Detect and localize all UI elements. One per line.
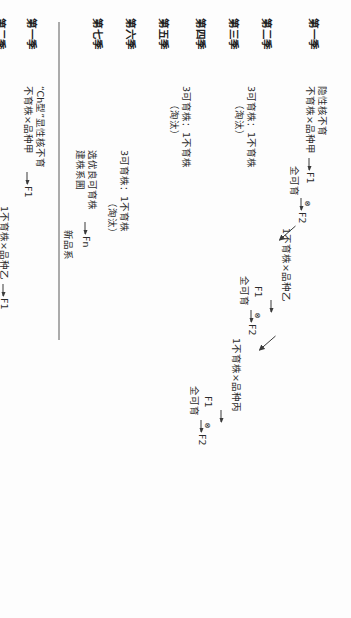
scanned-page-stage: 第一季 第二季 第三季 第四季 第五季 第六季 第七季 隐性核不育 不育株×品种…	[0, 0, 351, 618]
figure-b-arrow-start-to-f1	[26, 172, 27, 184]
figure-b-season-1: 第一季	[24, 18, 39, 50]
figure-b-start-line1: “Ch型”显性核不育	[34, 86, 46, 168]
figure-b-arrow-to-f1-b	[2, 284, 3, 296]
figure-b-cross-b: 1不育株×品种乙	[0, 206, 9, 280]
figure-b-f1-a: F1	[22, 186, 33, 198]
figure-b-start-line2: 不育株×品种甲	[22, 86, 34, 154]
figure-b-ch-type-dominant-sterility: 第一季 第二季 第三季 第四季 “Ch型”显性核不育 不育株×品种甲 F1 1可…	[0, 0, 351, 618]
figure-b-season-2: 第二季	[0, 18, 8, 50]
figure-b-f1-b: F1	[0, 298, 9, 310]
